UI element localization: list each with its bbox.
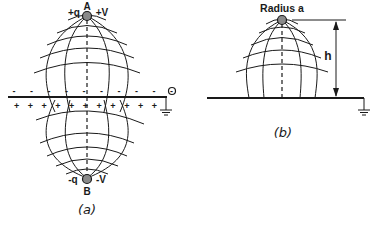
figure-b: Radius a h (b): [207, 2, 370, 140]
point-a-label: A: [83, 1, 90, 12]
charge-minus-q-label: -q: [68, 174, 77, 185]
induced-negative-charges: - - - - - - - - - - -: [0, 86, 179, 96]
height-arrow-icon: [333, 21, 339, 97]
equipotentials-lower: [36, 111, 144, 174]
caption-a: (a): [78, 202, 96, 217]
caption-b: (b): [274, 125, 292, 140]
potential-plus-v-label: +V: [96, 7, 109, 18]
figure-a: - - - - - - - - - - - + + + + + + + + + …: [0, 1, 179, 217]
induced-positive-charges: + + + + + + + + + + +: [14, 101, 160, 111]
ground-icon-b: [358, 98, 370, 115]
sphere-b-icon: [83, 175, 92, 184]
diagram-canvas: - - - - - - - - - - - + + + + + + + + + …: [0, 0, 376, 226]
point-b-label: B: [83, 186, 90, 197]
radius-label: Radius a: [260, 2, 304, 14]
charge-plus-q-label: +q: [68, 7, 80, 18]
sphere-a-icon: [83, 12, 92, 21]
sphere-icon: [278, 16, 287, 25]
potential-minus-v-label: -V: [96, 174, 106, 185]
height-label: h: [324, 49, 331, 63]
ground-icon: [160, 97, 172, 115]
